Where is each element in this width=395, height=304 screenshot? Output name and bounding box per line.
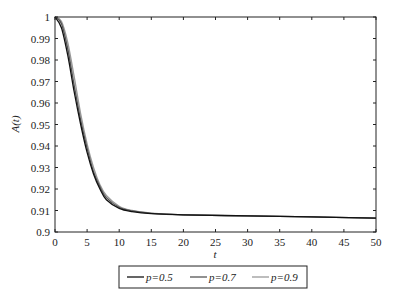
y-tick-label: 1 <box>45 11 51 23</box>
series-layer <box>55 17 376 218</box>
x-axis-label: t <box>213 248 217 260</box>
series-line-p05 <box>55 17 376 218</box>
x-tick-label: 30 <box>242 236 254 248</box>
y-tick-label: 0.94 <box>31 140 51 152</box>
line-chart: 05101520253035404550 0.90.910.920.930.94… <box>0 0 395 304</box>
y-tick-label: 0.98 <box>31 54 51 66</box>
x-tick-label: 5 <box>84 236 90 248</box>
x-tick-label: 15 <box>146 236 158 248</box>
x-tick-label: 10 <box>114 236 126 248</box>
plot-frame <box>55 17 376 232</box>
y-tick-label: 0.95 <box>31 119 51 131</box>
x-tick-label: 25 <box>210 236 222 248</box>
legend-label: p=0.7 <box>208 271 236 283</box>
legend-label: p=0.9 <box>270 271 298 283</box>
y-tick-label: 0.93 <box>31 162 51 174</box>
y-axis-label: A(t) <box>9 115 22 133</box>
x-tick-label: 50 <box>371 236 383 248</box>
x-tick-label: 20 <box>178 236 190 248</box>
series-line-p07 <box>55 17 376 218</box>
y-tick-label: 0.91 <box>31 205 50 217</box>
x-tick-label: 35 <box>274 236 286 248</box>
x-tick-label: 45 <box>338 236 350 248</box>
x-tick-label: 0 <box>52 236 58 248</box>
legend: p=0.5p=0.7p=0.9 <box>119 266 307 288</box>
y-tick-label: 0.96 <box>31 97 51 109</box>
y-tick-label: 0.99 <box>31 33 51 45</box>
x-tick-label: 40 <box>306 236 318 248</box>
legend-label: p=0.5 <box>145 271 173 283</box>
y-tick-label: 0.9 <box>36 226 50 238</box>
x-axis: 05101520253035404550 <box>52 17 382 248</box>
series-line-p09 <box>55 17 376 218</box>
y-tick-label: 0.92 <box>31 183 50 195</box>
y-tick-label: 0.97 <box>31 76 51 88</box>
